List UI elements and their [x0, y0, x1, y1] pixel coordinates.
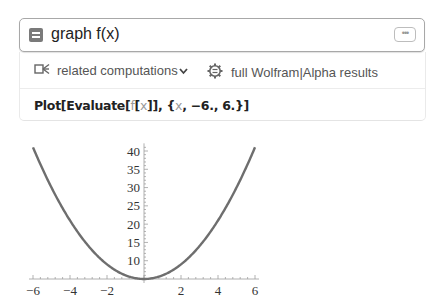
- y-tick-label: 10: [127, 253, 140, 268]
- x-tick-label: 2: [178, 283, 185, 298]
- y-tick-label: 20: [127, 217, 140, 232]
- input-equals-icon: [29, 28, 43, 42]
- full-results-button[interactable]: full Wolfram|Alpha results: [207, 63, 378, 82]
- plot-canvas: −6−4−224610152025303540: [0, 125, 270, 306]
- y-tick-label: 15: [127, 235, 140, 250]
- query-input-box[interactable]: graph f(x) •••: [19, 18, 425, 52]
- x-tick-label: −2: [100, 283, 114, 298]
- x-tick-label: 4: [215, 283, 222, 298]
- y-tick-label: 40: [127, 144, 140, 159]
- pod-toolbar: related computations f: [20, 52, 425, 89]
- y-tick-label: 25: [127, 198, 140, 213]
- gear-icon: [207, 63, 223, 82]
- code-prefix: Plot[Evaluate[: [34, 98, 130, 113]
- chevron-down-icon: [179, 63, 188, 78]
- related-computations-button[interactable]: related computations: [34, 63, 188, 78]
- query-text[interactable]: graph f(x): [51, 25, 119, 43]
- related-graph-icon: [34, 63, 51, 78]
- result-pod: related computations f: [19, 52, 426, 121]
- code-mid: ]], {: [147, 98, 175, 113]
- more-options-button[interactable]: •••: [394, 27, 416, 42]
- function-plot: −6−4−224610152025303540: [0, 125, 270, 306]
- code-symbol-x: x: [140, 98, 147, 113]
- x-tick-label: −6: [26, 283, 40, 298]
- related-computations-label: related computations: [57, 63, 178, 78]
- full-results-label: full Wolfram|Alpha results: [231, 65, 378, 80]
- y-tick-label: 30: [127, 180, 140, 195]
- x-tick-label: −4: [63, 283, 77, 298]
- wolfram-language-code: Plot[Evaluate[f[x]], {x, −6., 6.}]: [34, 98, 249, 113]
- y-tick-label: 35: [127, 162, 140, 177]
- x-tick-label: 6: [252, 283, 259, 298]
- code-suffix: , −6., 6.}]: [182, 98, 249, 113]
